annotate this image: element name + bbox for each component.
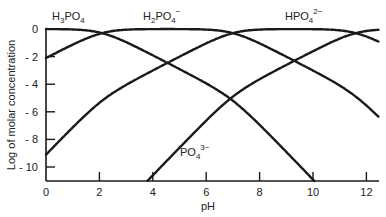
label-h3po4: H3PO4 (52, 10, 85, 25)
curve-hpo4 (46, 29, 378, 155)
curves (46, 29, 378, 181)
y-tick-label: - 4 (25, 78, 38, 90)
y-tick-label: - 2 (25, 51, 38, 63)
label-hpo4: HPO42− (285, 7, 323, 25)
x-ticks: 024681012 (43, 172, 373, 198)
x-tick-label: 4 (150, 186, 156, 198)
y-tick-label: - 8 (25, 133, 38, 145)
x-axis-title: pH (201, 200, 215, 212)
x-tick-label: 6 (203, 186, 209, 198)
x-tick-label: 2 (96, 186, 102, 198)
label-h2po4: H2PO4− (143, 7, 181, 25)
y-tick-label: - 6 (25, 106, 38, 118)
y-tick-label: 0 (32, 23, 38, 35)
label-po4: PO43− (180, 143, 210, 161)
x-tick-label: 10 (307, 186, 319, 198)
x-tick-label: 8 (257, 186, 263, 198)
y-tick-label: - 10 (19, 161, 38, 173)
curve-po4 (148, 30, 379, 181)
x-tick-label: 0 (43, 186, 49, 198)
curve-h2po4 (46, 29, 378, 117)
speciation-chart: 0- 2- 4- 6- 8- 10 024681012 pH Log of mo… (0, 0, 386, 217)
x-tick-label: 12 (360, 186, 372, 198)
y-axis-title: Log of molar concentration (5, 40, 17, 170)
